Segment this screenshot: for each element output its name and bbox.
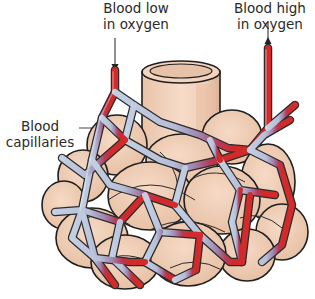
outflow-arrow-icon	[265, 22, 272, 46]
alveoli-diagram	[0, 0, 315, 299]
